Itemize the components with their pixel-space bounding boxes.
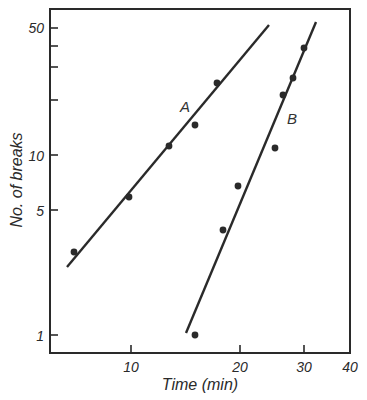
data-point	[166, 143, 173, 150]
series-b-label: B	[287, 110, 297, 127]
data-point	[126, 194, 133, 201]
x-axis-title: Time (min)	[162, 376, 238, 393]
data-point	[192, 122, 199, 129]
y-tick-5: 5	[36, 203, 44, 219]
series-b-points	[192, 45, 308, 339]
x-tick-10: 10	[123, 359, 139, 375]
series-a-points	[71, 80, 221, 256]
y-ticks	[50, 28, 58, 335]
y-axis-title: No. of breaks	[8, 132, 25, 227]
data-point	[290, 75, 297, 82]
x-ticks	[131, 345, 304, 353]
y-tick-50: 50	[28, 20, 44, 36]
data-point	[220, 227, 227, 234]
x-tick-30: 30	[296, 359, 312, 375]
series-b-fit-line	[186, 22, 316, 333]
y-tick-1: 1	[36, 328, 44, 344]
data-point	[235, 183, 242, 190]
data-point	[192, 332, 199, 339]
chart: 50 10 5 1 10 20 30 40 Time (min) No. of …	[0, 0, 367, 400]
data-point	[214, 80, 221, 87]
y-tick-10: 10	[28, 148, 44, 164]
x-tick-40: 40	[342, 359, 358, 375]
data-point	[272, 145, 279, 152]
data-point	[280, 92, 287, 99]
data-point	[301, 45, 308, 52]
data-point	[71, 249, 78, 256]
x-tick-20: 20	[231, 359, 248, 375]
series-a-label: A	[179, 98, 190, 115]
